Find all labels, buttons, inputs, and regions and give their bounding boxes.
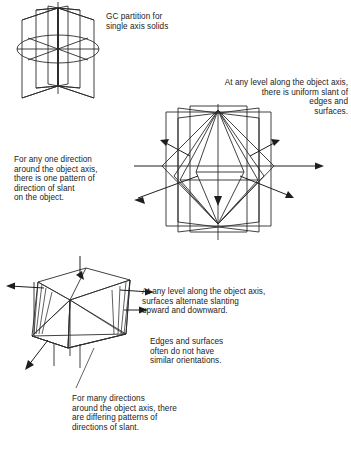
uniform-slant-diagram	[140, 104, 351, 246]
arrow-lower-right	[240, 176, 294, 198]
alternating-slant-svg	[8, 248, 156, 394]
arrow-bottom-left	[25, 340, 48, 370]
annotation-gc-partition: GC partition for single axis solids	[106, 12, 216, 31]
annotation-alternating-slant: At any level along the object axis, surf…	[142, 287, 312, 316]
alternating-slant-diagram	[8, 248, 156, 394]
arrow-upper-right	[250, 139, 280, 156]
annotation-edges-surfaces: Edges and surfaces often do not have sim…	[150, 337, 300, 366]
leader-line-to-many-directions	[76, 348, 94, 388]
uniform-slant-svg	[140, 104, 351, 246]
slant-arrows	[134, 139, 324, 204]
radial-planes	[166, 106, 271, 232]
annotation-one-direction: For any one direction around the object …	[14, 155, 136, 203]
slant-arrows	[6, 256, 154, 370]
diagram-page: GC partition for single axis solids At a…	[0, 0, 351, 452]
gc-partition-diagram	[8, 0, 108, 102]
arrow-left	[6, 283, 44, 290]
arrow-top-down	[76, 256, 84, 280]
gc-partition-svg	[8, 0, 108, 102]
annotation-uniform-slant: At any level along the object axis, ther…	[176, 78, 348, 116]
annotation-many-directions: For many directions around the object ax…	[72, 394, 242, 432]
arrow-right	[274, 163, 324, 170]
polyhedron-facets	[32, 280, 130, 348]
cross-section-ellipse	[17, 35, 99, 63]
base-lines	[32, 334, 126, 348]
